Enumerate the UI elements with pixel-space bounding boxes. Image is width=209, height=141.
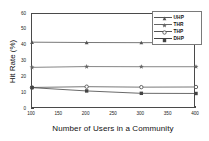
legend-item-uhp[interactable]: UHP [154,14,199,21]
legend-symbol-square [161,37,168,44]
x-axis-title: Number of Users in a Community [31,124,195,133]
data-point-star [30,65,35,70]
y-tick-label: 50 [13,26,26,31]
data-point-circle [140,85,143,88]
x-tick-label: 400 [185,111,205,116]
series-thp [30,85,197,89]
data-point-square [85,89,88,92]
data-point-star [84,64,89,69]
series-line [32,88,196,94]
x-tick-label: 300 [130,111,150,116]
x-tick-label: 150 [48,111,68,116]
legend-label: UHP [174,15,184,20]
data-point-circle [163,31,166,34]
legend-item-thp[interactable]: THP [154,28,199,35]
legend-marker [154,35,172,42]
data-point-square [163,38,166,41]
data-point-triangle-up [163,16,167,20]
chart-figure: Hit Rate (%) 010203040506010015020025030… [0,0,209,141]
series-line [32,87,196,88]
y-tick-label: 20 [13,74,26,79]
legend-item-dhp[interactable]: DHP [154,35,199,42]
x-tick-label: 250 [103,111,123,116]
x-tick-label: 350 [158,111,178,116]
y-tick-label: 60 [13,11,26,16]
y-tick-label: 30 [13,58,26,63]
legend-marker [154,21,172,28]
legend-marker [154,28,172,35]
data-point-circle [194,85,197,88]
data-point-square [30,86,33,89]
series-thr [30,64,199,69]
y-tick-label: 10 [13,90,26,95]
legend-label: THR [174,22,184,27]
data-point-square [140,92,143,95]
y-tick-label: 40 [13,42,26,47]
legend: UHPTHRTHPDHP [152,11,202,45]
data-point-circle [85,85,88,88]
data-point-square [194,92,197,95]
x-tick-label: 200 [76,111,96,116]
data-point-star [139,64,144,69]
y-tick-label: 0 [13,106,26,111]
series-line [32,67,196,68]
x-tick-label: 100 [21,111,41,116]
legend-label: THP [174,29,184,34]
legend-marker [154,14,172,21]
legend-item-thr[interactable]: THR [154,21,199,28]
legend-label: DHP [174,36,184,41]
